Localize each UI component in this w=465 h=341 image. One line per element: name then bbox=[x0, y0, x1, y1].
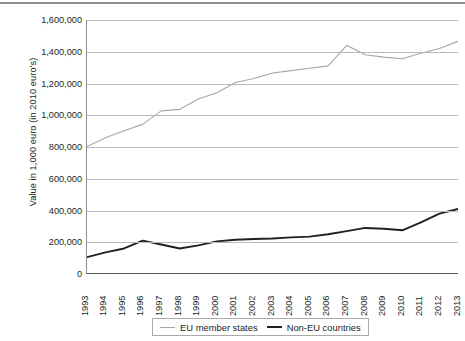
series-line-2 bbox=[87, 209, 458, 257]
legend-line-swatch-icon bbox=[160, 327, 175, 328]
x-axis-tick-label: 1997 bbox=[154, 296, 164, 316]
y-axis-tick-label: 200,000 bbox=[49, 237, 82, 247]
x-axis-tick-label: 1996 bbox=[135, 296, 145, 316]
top-divider-rule bbox=[0, 2, 465, 4]
x-axis-tick-label: 1998 bbox=[173, 296, 183, 316]
y-axis-tick-labels: 1,600,0001,400,0001,200,0001,000,000800,… bbox=[16, 20, 82, 274]
series-line-1 bbox=[87, 41, 458, 146]
gridline bbox=[87, 52, 458, 53]
gridline bbox=[87, 147, 458, 148]
x-axis-tick-label: 2009 bbox=[377, 296, 387, 316]
gridline bbox=[87, 115, 458, 116]
x-axis-tick-labels: 1993199419951996199719981999200020012002… bbox=[86, 278, 458, 316]
y-axis-tick-label: 1,000,000 bbox=[41, 110, 82, 120]
x-axis-tick-label: 1993 bbox=[80, 296, 90, 316]
x-axis-tick-label: 2010 bbox=[396, 296, 406, 316]
gridline bbox=[87, 211, 458, 212]
legend-label: EU member states bbox=[180, 322, 258, 333]
legend-entry[interactable]: Non-EU countries bbox=[267, 322, 361, 333]
x-axis-tick-label: 2012 bbox=[433, 296, 443, 316]
y-axis-tick-label: 1,200,000 bbox=[41, 79, 82, 89]
x-axis-tick-label: 2004 bbox=[284, 296, 294, 316]
x-axis-tick-label: 2006 bbox=[321, 296, 331, 316]
x-axis-tick-label: 2001 bbox=[228, 296, 238, 316]
gridline bbox=[87, 179, 458, 180]
x-axis-tick-label: 2008 bbox=[359, 296, 369, 316]
y-axis-tick-label: 400,000 bbox=[49, 206, 82, 216]
x-axis-tick-label: 2002 bbox=[247, 296, 257, 316]
y-axis-tick-label: 1,400,000 bbox=[41, 47, 82, 57]
x-axis-tick-label: 2003 bbox=[266, 296, 276, 316]
x-axis-tick-label: 2007 bbox=[340, 296, 350, 316]
legend-label: Non-EU countries bbox=[287, 322, 361, 333]
y-axis-tick-label: 0 bbox=[77, 269, 82, 279]
x-axis-tick-label: 1995 bbox=[117, 296, 127, 316]
gridline bbox=[87, 242, 458, 243]
x-axis-tick-label: 1999 bbox=[191, 296, 201, 316]
x-axis-tick-label: 2005 bbox=[303, 296, 313, 316]
y-axis-tick-label: 800,000 bbox=[49, 142, 82, 152]
legend-line-swatch-icon bbox=[267, 326, 282, 328]
legend-entry[interactable]: EU member states bbox=[160, 322, 258, 333]
y-axis-tick-label: 1,600,000 bbox=[41, 15, 82, 25]
x-axis-tick-label: 1994 bbox=[98, 296, 108, 316]
gridline bbox=[87, 20, 458, 21]
gridline bbox=[87, 84, 458, 85]
plot-area bbox=[86, 20, 458, 274]
chart-legend: EU member statesNon-EU countries bbox=[152, 318, 369, 336]
y-axis-tick-label: 600,000 bbox=[49, 174, 82, 184]
x-axis-tick-label: 2013 bbox=[452, 296, 462, 316]
x-axis-tick-label: 2011 bbox=[414, 296, 424, 316]
x-axis-tick-label: 2000 bbox=[210, 296, 220, 316]
